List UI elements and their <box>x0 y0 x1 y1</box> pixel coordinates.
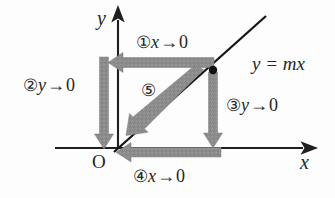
step-3-label: ③y→0 <box>226 96 278 114</box>
y-axis-label: y <box>97 8 106 28</box>
step-1-arrow-glyph: → <box>159 32 179 52</box>
step-2-arrow <box>95 57 114 149</box>
step-1-marker: ① <box>136 34 151 51</box>
step-4-limit: 0 <box>176 166 185 186</box>
line-equation-label: y = mx <box>252 54 305 73</box>
step-3-variable: y <box>241 95 249 115</box>
step-2-variable: y <box>38 75 46 95</box>
step-1-label: ①x→0 <box>136 33 188 51</box>
step-2-marker: ② <box>23 77 38 94</box>
step-5-marker: ⑤ <box>141 82 156 99</box>
step-1-variable: x <box>151 32 159 52</box>
step-4-arrow-glyph: → <box>156 166 176 186</box>
step-4-label: ④x→0 <box>133 167 185 185</box>
step-4-marker: ④ <box>133 168 148 185</box>
step-3-limit: 0 <box>269 95 278 115</box>
point-on-line <box>209 66 217 74</box>
step-4-arrow <box>116 143 221 163</box>
origin-label: O <box>92 152 106 171</box>
step-2-arrow-glyph: → <box>46 75 66 95</box>
step-4-variable: x <box>148 166 156 186</box>
step-3-marker: ③ <box>226 97 241 114</box>
step-5-label: ⑤ <box>141 81 156 99</box>
step-2-label: ②y→0 <box>23 76 75 94</box>
step-1-limit: 0 <box>179 32 188 52</box>
step-5-arrow <box>126 64 204 136</box>
step-3-arrow-glyph: → <box>249 95 269 115</box>
step-3-arrow <box>204 72 223 148</box>
limit-diagram-figure: y x O y = mx ①x→0 ②y→0 ③y→0 ④x→0 ⑤ <box>0 0 335 198</box>
step-2-limit: 0 <box>66 75 75 95</box>
x-axis-label: x <box>300 152 309 172</box>
